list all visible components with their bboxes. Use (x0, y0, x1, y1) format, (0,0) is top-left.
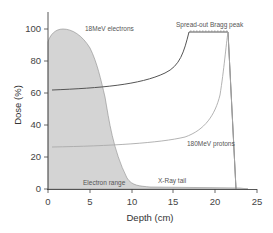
x-tick-20: 20 (210, 196, 221, 207)
x-tick-0: 0 (45, 196, 50, 207)
protons-label: 180MeV protons (187, 140, 235, 148)
x-tick-15: 15 (168, 196, 179, 207)
y-axis-label: Dose (%) (12, 85, 23, 125)
y-tick-100: 100 (25, 23, 41, 34)
x-tick-10: 10 (127, 196, 138, 207)
y-tick-40: 40 (30, 119, 41, 130)
electron-range-label: Electron range (83, 179, 126, 187)
x-tick-25: 25 (252, 196, 263, 207)
xray-tail-label: X-Ray tail (158, 177, 187, 185)
sobp-label: Spread-out Bragg peak (176, 21, 244, 29)
x-tick-5: 5 (87, 196, 92, 207)
electrons-area (48, 29, 248, 189)
y-tick-0: 0 (36, 183, 41, 194)
y-ticks (44, 29, 48, 189)
y-tick-60: 60 (30, 87, 41, 98)
y-tick-80: 80 (30, 55, 41, 66)
depth-dose-chart: 0 20 40 60 80 100 0 5 10 15 20 25 Depth … (0, 0, 273, 233)
y-tick-20: 20 (30, 151, 41, 162)
x-axis-label: Depth (cm) (127, 212, 174, 223)
electrons-label: 18MeV electrons (85, 25, 135, 32)
